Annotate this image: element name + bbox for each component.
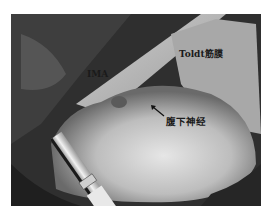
label-hypogastric-nerve: 腹下神经 [166,117,206,127]
arrow-icon [150,104,166,118]
label-ima: IMA [87,70,108,79]
label-toldt-fascia: Toldt筋膜 [179,50,223,59]
surgical-photo [11,14,261,206]
surgical-scene [11,14,261,206]
